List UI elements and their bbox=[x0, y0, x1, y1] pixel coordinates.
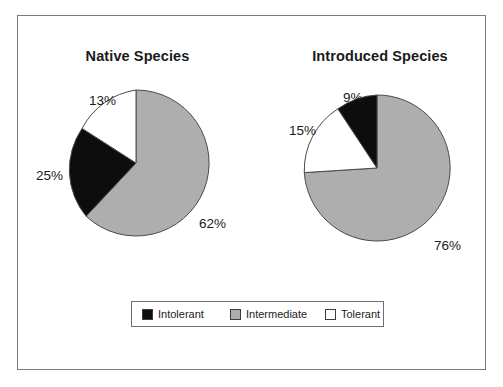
pie-svg-introduced-species bbox=[303, 94, 451, 242]
pie-label-native-intermediate: 62% bbox=[199, 216, 226, 231]
pie-chart-introduced-species bbox=[303, 94, 451, 242]
pie-label-introduced-tolerant: 15% bbox=[289, 123, 316, 138]
legend-label-tolerant: Tolerant bbox=[341, 308, 380, 320]
legend-swatch-intolerant-icon bbox=[142, 309, 153, 320]
figure-root: Native Species 13% 25% 62% Introduced Sp… bbox=[0, 0, 503, 387]
pie-label-native-intolerant: 25% bbox=[36, 168, 63, 183]
legend-label-intermediate: Intermediate bbox=[246, 308, 307, 320]
legend-item-intolerant: Intolerant bbox=[142, 302, 204, 326]
chart-title-native-species: Native Species bbox=[12, 48, 263, 64]
pie-label-introduced-intermediate: 76% bbox=[434, 238, 461, 253]
legend-label-intolerant: Intolerant bbox=[158, 308, 204, 320]
legend-swatch-intermediate-icon bbox=[230, 309, 241, 320]
figure-frame: Native Species 13% 25% 62% Introduced Sp… bbox=[17, 15, 486, 370]
pie-chart-native-species bbox=[62, 89, 210, 237]
legend-item-intermediate: Intermediate bbox=[230, 302, 307, 326]
chart-title-introduced-species: Introduced Species bbox=[271, 48, 489, 64]
pie-label-introduced-intolerant: 9% bbox=[343, 90, 363, 105]
pie-svg-native-species bbox=[62, 89, 210, 237]
legend: Intolerant Intermediate Tolerant bbox=[131, 301, 384, 327]
legend-swatch-tolerant-icon bbox=[325, 309, 336, 320]
legend-item-tolerant: Tolerant bbox=[325, 302, 380, 326]
pie-label-native-tolerant: 13% bbox=[89, 93, 116, 108]
